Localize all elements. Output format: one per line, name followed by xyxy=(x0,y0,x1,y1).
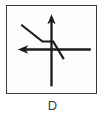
piecewise-step-curve xyxy=(21,25,64,59)
diagram-frame xyxy=(6,5,97,94)
horizontal-axis xyxy=(18,45,91,53)
figure-caption: D xyxy=(0,98,105,114)
graph-canvas xyxy=(7,6,96,93)
figure-root: D xyxy=(0,0,105,125)
